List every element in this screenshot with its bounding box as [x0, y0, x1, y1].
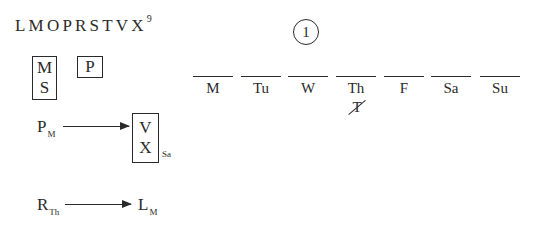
- rule2-consequent-letter: L: [138, 195, 148, 214]
- schedule-slot-thursday: Th: [336, 76, 376, 97]
- roster-count: 9: [147, 13, 152, 24]
- question-number: 1: [302, 24, 310, 40]
- rule1-antecedent-letter: P: [37, 117, 46, 136]
- rule1-antecedent-day: M: [47, 129, 55, 139]
- roster-letters: LMOPRSTVX9: [15, 16, 152, 36]
- slot-blank-line: [431, 76, 471, 77]
- slot-day-label: Th: [336, 80, 376, 97]
- rule1-consequent-box: V X: [132, 113, 159, 163]
- group-box-p: P: [77, 56, 103, 78]
- slot-day-label: F: [384, 80, 424, 97]
- schedule-slot-tuesday: Tu: [241, 76, 281, 97]
- schedule-slot-saturday: Sa: [431, 76, 471, 97]
- rule2-consequent-day: M: [149, 207, 157, 217]
- slot-day-label: Su: [480, 80, 520, 97]
- rule2-antecedent: RTh: [37, 195, 59, 215]
- rule1-arrow-icon: [63, 126, 129, 127]
- rule1-antecedent: PM: [37, 117, 55, 137]
- group-box-ms: M S: [32, 56, 57, 100]
- slot-blank-line: [193, 76, 233, 77]
- slot-day-label: Tu: [241, 80, 281, 97]
- schedule-slot-sunday: Su: [480, 76, 520, 97]
- rule1-consequent-item: X: [133, 138, 158, 158]
- slot-blank-line: [288, 76, 328, 77]
- rule2-antecedent-day: Th: [49, 207, 59, 217]
- rule1-consequent-day: Sa: [162, 149, 171, 159]
- slot-blank-line: [241, 76, 281, 77]
- rule2-antecedent-letter: R: [37, 195, 48, 214]
- schedule-slot-friday: F: [384, 76, 424, 97]
- schedule-slot-wednesday: W: [288, 76, 328, 97]
- rule1-consequent-item: V: [133, 118, 158, 138]
- roster-letter-list: LMOPRSTVX: [15, 16, 147, 35]
- group-box-ms-item: S: [33, 78, 56, 98]
- slot-blank-line: [336, 76, 376, 77]
- group-box-ms-item: M: [33, 58, 56, 78]
- slot-blank-line: [480, 76, 520, 77]
- question-number-circle: 1: [293, 19, 319, 45]
- slot-day-label: W: [288, 80, 328, 97]
- slot-day-label: Sa: [431, 80, 471, 97]
- slot-blank-line: [384, 76, 424, 77]
- rule2-consequent: LM: [138, 195, 157, 215]
- excluded-letter: T: [352, 99, 361, 115]
- slot-day-label: M: [193, 80, 233, 97]
- thursday-excluded-letter: T: [348, 99, 366, 116]
- group-box-p-item: P: [78, 57, 102, 77]
- schedule-slot-monday: M: [193, 76, 233, 97]
- rule2-arrow-icon: [65, 204, 131, 205]
